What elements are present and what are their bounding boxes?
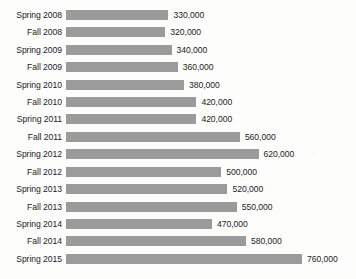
bar-row: Fall 2013550,000 <box>0 198 356 215</box>
bar-row: Spring 2014470,000 <box>0 215 356 232</box>
bar-row: Fall 2011560,000 <box>0 128 356 145</box>
value-label: 420,000 <box>201 114 232 124</box>
bar-and-value: 580,000 <box>66 236 282 246</box>
plot-area: Spring 2008330,000Fall 2008320,000Spring… <box>0 0 356 279</box>
value-label: 560,000 <box>245 132 276 142</box>
bar-and-value: 470,000 <box>66 219 248 229</box>
bar-row: Fall 2008320,000 <box>0 24 356 41</box>
bar-and-value: 380,000 <box>66 80 220 90</box>
bar-row: Spring 2015760,000 <box>0 250 356 267</box>
value-label: 520,000 <box>232 184 263 194</box>
bar-row: Fall 2012500,000 <box>0 163 356 180</box>
bar-and-value: 420,000 <box>66 114 232 124</box>
value-label: 580,000 <box>251 236 282 246</box>
bar <box>66 97 196 107</box>
bar-and-value: 550,000 <box>66 202 273 212</box>
bar-and-value: 760,000 <box>66 254 338 264</box>
bar <box>66 114 196 124</box>
bar-and-value: 620,000 <box>66 149 294 159</box>
bar <box>66 167 221 177</box>
bar-row: Spring 2012620,000 <box>0 146 356 163</box>
bar-and-value: 340,000 <box>66 45 207 55</box>
bar-and-value: 330,000 <box>66 10 204 20</box>
bar <box>66 62 178 72</box>
category-label: Fall 2012 <box>0 167 62 177</box>
category-label: Fall 2008 <box>0 27 62 37</box>
category-label: Spring 2011 <box>0 114 62 124</box>
bar <box>66 45 172 55</box>
bar-chart: Spring 2008330,000Fall 2008320,000Spring… <box>0 0 356 279</box>
bar-row: Spring 2008330,000 <box>0 6 356 23</box>
bar-and-value: 360,000 <box>66 62 214 72</box>
bar <box>66 80 184 90</box>
value-label: 420,000 <box>201 97 232 107</box>
bar <box>66 202 237 212</box>
value-label: 380,000 <box>189 80 220 90</box>
category-label: Fall 2014 <box>0 236 62 246</box>
bar-row: Fall 2014580,000 <box>0 233 356 250</box>
value-label: 470,000 <box>217 219 248 229</box>
bar-row: Spring 2011420,000 <box>0 111 356 128</box>
bar-row: Spring 2010380,000 <box>0 76 356 93</box>
value-label: 760,000 <box>307 254 338 264</box>
bar-and-value: 320,000 <box>66 27 201 37</box>
bar-and-value: 520,000 <box>66 184 263 194</box>
value-label: 330,000 <box>173 10 204 20</box>
category-label: Spring 2008 <box>0 10 62 20</box>
value-label: 500,000 <box>226 167 257 177</box>
value-label: 320,000 <box>170 27 201 37</box>
bar <box>66 149 259 159</box>
category-label: Spring 2013 <box>0 184 62 194</box>
category-label: Spring 2012 <box>0 149 62 159</box>
category-label: Spring 2010 <box>0 80 62 90</box>
bar-row: Fall 2009360,000 <box>0 58 356 75</box>
bar-and-value: 420,000 <box>66 97 232 107</box>
bar <box>66 184 227 194</box>
value-label: 550,000 <box>242 202 273 212</box>
bar-and-value: 560,000 <box>66 132 276 142</box>
value-label: 360,000 <box>183 62 214 72</box>
category-label: Fall 2011 <box>0 132 62 142</box>
category-label: Fall 2013 <box>0 202 62 212</box>
bar <box>66 10 168 20</box>
bar-row: Fall 2010420,000 <box>0 93 356 110</box>
category-label: Spring 2014 <box>0 219 62 229</box>
category-label: Fall 2010 <box>0 97 62 107</box>
bar <box>66 254 302 264</box>
bar-row: Spring 2013520,000 <box>0 180 356 197</box>
value-label: 340,000 <box>177 45 208 55</box>
bar <box>66 236 246 246</box>
category-label: Spring 2009 <box>0 45 62 55</box>
category-label: Fall 2009 <box>0 62 62 72</box>
bar-row: Spring 2009340,000 <box>0 41 356 58</box>
bar <box>66 132 240 142</box>
category-label: Spring 2015 <box>0 254 62 264</box>
bar <box>66 27 165 37</box>
value-label: 620,000 <box>264 149 295 159</box>
bar-and-value: 500,000 <box>66 167 257 177</box>
bar <box>66 219 212 229</box>
